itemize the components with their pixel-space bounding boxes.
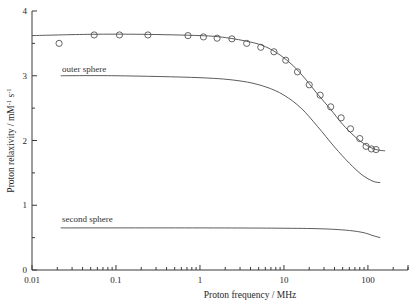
data-point-marker (145, 32, 151, 38)
data-point-marker (306, 82, 312, 88)
data-markers-group (56, 32, 379, 153)
y-tick-label: 1 (23, 200, 28, 210)
data-point-marker (283, 57, 289, 63)
data-point-marker (214, 35, 220, 41)
second-sphere-label: second sphere (62, 214, 113, 224)
y-axis-title-main: Proton relaxivity / mM (6, 105, 16, 193)
x-axis-title: Proton frequency / MHz (204, 290, 297, 300)
nmrd-relaxivity-chart: 012340.010.1110100 outer spheresecond sp… (0, 0, 419, 305)
data-point-marker (116, 32, 122, 38)
y-tick-label: 2 (23, 136, 28, 146)
x-tick-label: 0.01 (24, 275, 40, 285)
y-tick-label: 4 (23, 6, 28, 16)
data-point-marker (347, 126, 353, 132)
y-tick-label: 3 (23, 71, 28, 81)
outer-sphere-label: outer sphere (62, 64, 106, 74)
x-tick-label: 0.1 (110, 275, 121, 285)
x-tick-label: 100 (361, 275, 375, 285)
curve-outer-sphere (61, 76, 380, 183)
data-point-marker (56, 40, 62, 46)
data-point-marker (91, 32, 97, 38)
labels-group: outer spheresecond sphereProton frequenc… (5, 64, 296, 300)
curve-fit-curve-total- (32, 34, 385, 151)
data-point-marker (338, 115, 344, 121)
data-point-marker (271, 49, 277, 55)
y-axis-title-sup2: -1 (5, 88, 12, 93)
data-point-marker (200, 34, 206, 40)
x-tick-label: 10 (279, 275, 289, 285)
axes-group: 012340.010.1110100 (23, 6, 409, 285)
y-tick-label: 0 (23, 265, 28, 275)
x-tick-label: 1 (198, 275, 203, 285)
chart-canvas: 012340.010.1110100 outer spheresecond sp… (0, 0, 419, 305)
y-axis-title: Proton relaxivity / mM-1 s-1 (5, 88, 16, 192)
curve-second-sphere (61, 228, 380, 238)
